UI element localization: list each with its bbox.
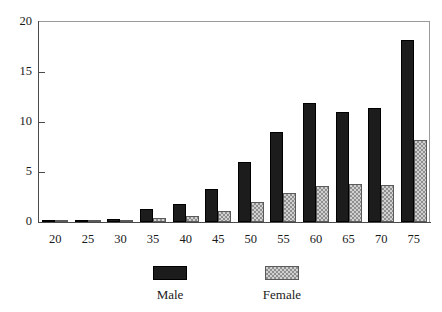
bar-group xyxy=(235,22,268,222)
bar-group xyxy=(169,22,202,222)
legend-label-male: Male xyxy=(110,287,230,302)
chart-legend: Male Female xyxy=(0,266,442,310)
bar-female-50 xyxy=(251,202,264,222)
legend-entry-male: Male xyxy=(110,266,230,302)
bar-female-70 xyxy=(381,185,394,222)
bar-female-20 xyxy=(55,220,68,222)
y-axis-label: 20 xyxy=(6,15,32,27)
bar-group xyxy=(72,22,105,222)
bar-male-35 xyxy=(140,209,153,222)
bar-female-30 xyxy=(120,220,133,222)
bar-female-40 xyxy=(186,216,199,222)
bar-group xyxy=(202,22,235,222)
bar-male-70 xyxy=(368,108,381,222)
bar-male-30 xyxy=(107,219,120,223)
bar-male-65 xyxy=(336,112,349,222)
bar-male-60 xyxy=(303,103,316,222)
bar-group xyxy=(39,22,72,222)
y-axis-label: 5 xyxy=(6,165,32,177)
legend-swatch-male xyxy=(153,266,187,280)
bar-female-60 xyxy=(316,186,329,222)
legend-label-female: Female xyxy=(222,287,342,302)
bar-group xyxy=(300,22,333,222)
bar-chart: 05101520 202530354045505560657075 Male F… xyxy=(0,0,442,312)
bar-male-45 xyxy=(205,189,218,222)
bar-female-45 xyxy=(218,211,231,222)
legend-swatch-female xyxy=(265,266,299,280)
bar-male-40 xyxy=(173,204,186,222)
bar-female-55 xyxy=(283,193,296,222)
y-axis-label: 0 xyxy=(6,215,32,227)
bar-group xyxy=(397,22,430,222)
bar-group xyxy=(332,22,365,222)
bar-female-35 xyxy=(153,218,166,222)
bar-group xyxy=(267,22,300,222)
x-axis-label: 75 xyxy=(394,232,434,246)
bar-female-65 xyxy=(349,184,362,222)
plot-area xyxy=(39,22,430,222)
bar-male-75 xyxy=(401,40,414,222)
bar-male-50 xyxy=(238,162,251,222)
bar-female-25 xyxy=(88,220,101,222)
legend-entry-female: Female xyxy=(222,266,342,302)
y-axis-label: 15 xyxy=(6,65,32,77)
bar-male-55 xyxy=(270,132,283,222)
bar-group xyxy=(104,22,137,222)
bar-group xyxy=(365,22,398,222)
x-axis-line xyxy=(38,222,431,223)
bar-male-25 xyxy=(75,220,88,222)
bar-group xyxy=(137,22,170,222)
bar-female-75 xyxy=(414,140,427,222)
y-axis-label: 10 xyxy=(6,115,32,127)
bar-male-20 xyxy=(42,220,55,222)
